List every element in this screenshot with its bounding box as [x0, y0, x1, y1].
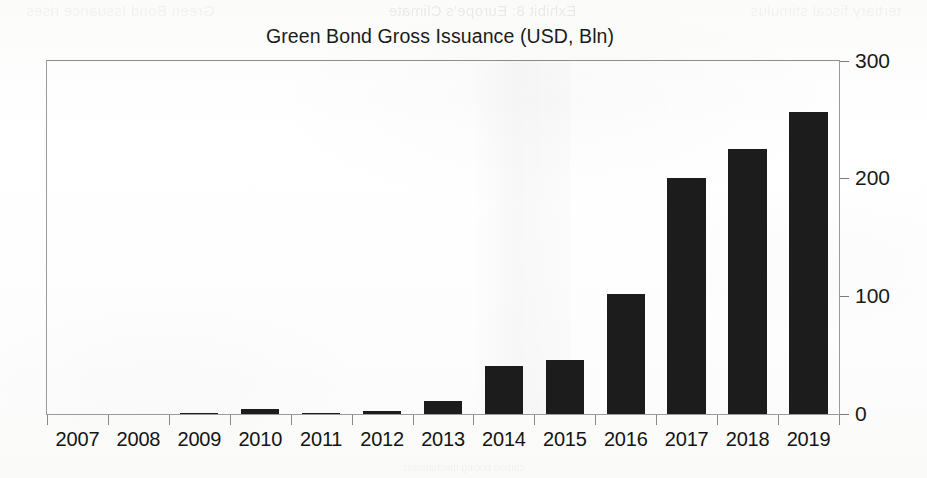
x-label-2018: 2018	[717, 428, 778, 460]
bar-slot	[413, 61, 474, 414]
ghost-showthrough-bottom: carbon pricing mechanisms	[0, 462, 927, 476]
x-label-2019: 2019	[778, 428, 839, 460]
bar-slot	[656, 61, 717, 414]
bar-2015	[546, 360, 584, 414]
y-tick-mark	[840, 414, 849, 415]
bar-2013	[424, 401, 462, 414]
ghost-text-left: tertiary fiscal stimulus	[750, 2, 901, 19]
bar-slot	[534, 61, 595, 414]
x-tick	[230, 415, 231, 425]
bar-slot	[169, 61, 230, 414]
x-tick	[656, 415, 657, 425]
x-axis-ticks	[47, 415, 839, 426]
bar-2010	[241, 409, 279, 414]
x-tick	[534, 415, 535, 425]
x-tick	[595, 415, 596, 425]
x-tick	[839, 415, 840, 425]
x-label-2010: 2010	[230, 428, 291, 460]
x-label-2015: 2015	[534, 428, 595, 460]
bar-slot	[778, 61, 839, 414]
y-tick-mark	[840, 178, 849, 179]
ghost-text-mid: Exhibit 8: Europe's Climate	[389, 2, 577, 19]
x-label-2011: 2011	[291, 428, 352, 460]
bar-slot	[352, 61, 413, 414]
bar-2011	[302, 413, 340, 414]
y-tick-mark	[840, 296, 849, 297]
bar-2016	[607, 294, 645, 414]
bar-slot	[595, 61, 656, 414]
x-tick	[108, 415, 109, 425]
chart-title: Green Bond Gross Issuance (USD, Bln)	[0, 25, 880, 48]
bar-2009	[180, 413, 218, 414]
x-label-2007: 2007	[47, 428, 108, 460]
x-label-2013: 2013	[413, 428, 474, 460]
x-tick	[352, 415, 353, 425]
bar-2019	[789, 112, 827, 414]
bar-slot	[473, 61, 534, 414]
x-label-2016: 2016	[595, 428, 656, 460]
y-axis: 0100200300	[840, 60, 920, 415]
bar-series-layer	[47, 61, 839, 414]
y-tick-mark	[840, 61, 849, 62]
bar-2012	[363, 411, 401, 415]
x-tick	[169, 415, 170, 425]
bar-slot	[230, 61, 291, 414]
x-tick	[47, 415, 48, 425]
x-label-2008: 2008	[108, 428, 169, 460]
bar-slot	[108, 61, 169, 414]
x-tick	[717, 415, 718, 425]
x-tick	[291, 415, 292, 425]
y-tick-label: 200	[855, 167, 890, 188]
y-tick-label: 100	[855, 285, 890, 306]
x-label-2009: 2009	[169, 428, 230, 460]
x-tick	[473, 415, 474, 425]
x-label-2017: 2017	[656, 428, 717, 460]
x-tick	[413, 415, 414, 425]
bar-2018	[728, 149, 766, 414]
x-axis-labels: 2007200820092010201120122013201420152016…	[47, 428, 839, 460]
x-label-2012: 2012	[352, 428, 413, 460]
bar-slot	[47, 61, 108, 414]
bar-2017	[667, 178, 705, 415]
ghost-showthrough-text: tertiary fiscal stimulus Exhibit 8: Euro…	[0, 0, 927, 22]
ghost-text-right: Green Bond Issuance rises	[26, 2, 214, 19]
y-tick-label: 0	[855, 403, 867, 424]
x-tick	[778, 415, 779, 425]
bar-2014	[485, 366, 523, 414]
chart-page: tertiary fiscal stimulus Exhibit 8: Euro…	[0, 0, 927, 478]
y-tick-label: 300	[855, 50, 890, 71]
bar-slot	[291, 61, 352, 414]
x-label-2014: 2014	[473, 428, 534, 460]
bar-slot	[717, 61, 778, 414]
